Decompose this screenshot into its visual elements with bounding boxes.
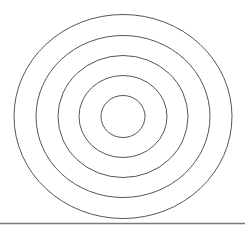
ring-2	[36, 36, 210, 198]
ring-3	[58, 56, 188, 178]
ring-4	[79, 76, 167, 158]
ring-5	[101, 96, 145, 138]
concentric-rings-diagram	[0, 0, 245, 228]
rings-group	[14, 15, 232, 219]
ring-1	[14, 15, 232, 219]
